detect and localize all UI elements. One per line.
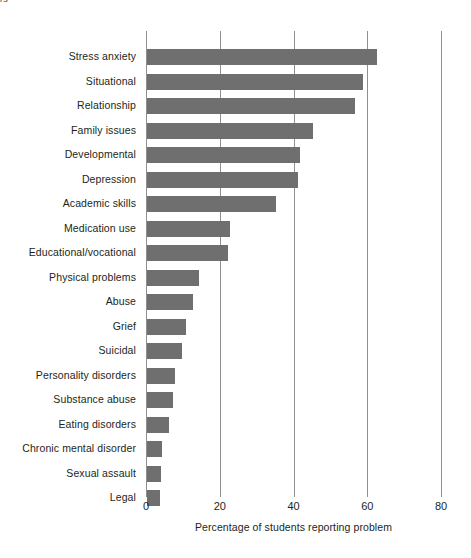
bar-row: Medication use	[0, 220, 471, 245]
x-axis-title: Percentage of students reporting problem	[146, 521, 441, 533]
bar-row: Physical problems	[0, 269, 471, 294]
category-label: Relationship	[0, 99, 136, 112]
bar	[147, 74, 363, 90]
bar	[147, 245, 228, 261]
category-label: Abuse	[0, 295, 136, 308]
category-label: Chronic mental disorder	[0, 442, 136, 455]
bar-rows: Stress anxietySituationalRelationshipFam…	[0, 0, 471, 558]
x-tick-label: 80	[435, 500, 447, 512]
category-label: Medication use	[0, 222, 136, 235]
bar	[147, 172, 298, 188]
category-label: Developmental	[0, 148, 136, 161]
category-label: Physical problems	[0, 271, 136, 284]
bar-row: Family issues	[0, 122, 471, 147]
category-label: Academic skills	[0, 197, 136, 210]
bar-row: Stress anxiety	[0, 48, 471, 73]
x-tick-label: 40	[287, 500, 299, 512]
category-label: Family issues	[0, 124, 136, 137]
bar	[147, 294, 193, 310]
bar-row: Relationship	[0, 97, 471, 122]
x-tick-label: 0	[143, 500, 149, 512]
bar-row: Legal	[0, 489, 471, 514]
bar-row: Developmental	[0, 146, 471, 171]
category-label: Legal	[0, 491, 136, 504]
bar-row: Academic skills	[0, 195, 471, 220]
bar	[147, 417, 169, 433]
bar	[147, 49, 377, 65]
category-label: Suicidal	[0, 344, 136, 357]
category-label: Depression	[0, 173, 136, 186]
bar-row: Personality disorders	[0, 367, 471, 392]
bar	[147, 343, 182, 359]
bar-row: Suicidal	[0, 342, 471, 367]
x-tick-label: 20	[214, 500, 226, 512]
bar-row: Situational	[0, 73, 471, 98]
bar	[147, 221, 230, 237]
bar-row: Substance abuse	[0, 391, 471, 416]
bar	[147, 98, 355, 114]
bar-row: Depression	[0, 171, 471, 196]
category-label: Eating disorders	[0, 418, 136, 431]
bar	[147, 196, 276, 212]
bar-row: Sexual assault	[0, 465, 471, 490]
bar	[147, 147, 300, 163]
category-label: Substance abuse	[0, 393, 136, 406]
bar	[147, 270, 199, 286]
bar-row: Grief	[0, 318, 471, 343]
bar	[147, 123, 313, 139]
bar-row: Chronic mental disorder	[0, 440, 471, 465]
category-label: Educational/vocational	[0, 246, 136, 259]
bar-row: Educational/vocational	[0, 244, 471, 269]
category-label: Personality disorders	[0, 369, 136, 382]
x-tick-label: 60	[361, 500, 373, 512]
bar	[147, 441, 162, 457]
horizontal-bar-chart: Stress anxietySituationalRelationshipFam…	[0, 0, 471, 558]
category-label: Situational	[0, 75, 136, 88]
bar-row: Abuse	[0, 293, 471, 318]
bar	[147, 319, 186, 335]
bar	[147, 392, 173, 408]
category-label: Grief	[0, 320, 136, 333]
category-label: Sexual assault	[0, 467, 136, 480]
bar-row: Eating disorders	[0, 416, 471, 441]
bar	[147, 466, 161, 482]
bar	[147, 368, 175, 384]
category-label: Stress anxiety	[0, 50, 136, 63]
